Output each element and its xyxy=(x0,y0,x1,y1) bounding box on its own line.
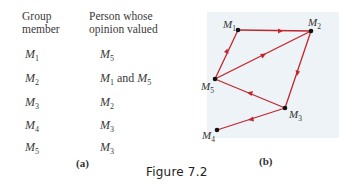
table-row-member: M5 xyxy=(25,140,39,156)
opinion-table: Group member Person whose opinion valued… xyxy=(0,0,190,160)
figure-caption: Figure 7.2 xyxy=(146,165,208,179)
table-row-valued: M2 xyxy=(100,95,114,111)
node-m3 xyxy=(283,106,288,111)
table-row-valued: M1 and M5 xyxy=(100,71,151,87)
table-row-member: M3 xyxy=(25,95,39,111)
node-m1 xyxy=(236,28,241,33)
caption-a: (a) xyxy=(76,157,89,169)
header-group-member: Group member xyxy=(22,10,60,36)
table-row-valued: M3 xyxy=(100,118,114,134)
node-m2 xyxy=(309,29,314,34)
node-m4 xyxy=(215,128,220,133)
table-row-member: M2 xyxy=(25,71,39,87)
table-row-member: M1 xyxy=(25,47,39,63)
table-row-valued: M5 xyxy=(100,47,114,63)
node-m5 xyxy=(213,77,218,82)
header-line: Group xyxy=(22,10,60,23)
header-person-valued: Person whose opinion valued xyxy=(89,10,158,36)
digraph-panel: M1 M2 M3 M4 M5 xyxy=(195,0,339,145)
header-line: opinion valued xyxy=(89,23,158,36)
digraph: M1 M2 M3 M4 M5 xyxy=(195,0,339,145)
header-line: Person whose xyxy=(89,10,158,23)
table-row-member: M4 xyxy=(25,118,39,134)
table-row-valued: M3 xyxy=(100,140,114,156)
caption-b: (b) xyxy=(259,155,272,167)
header-line: member xyxy=(22,23,60,36)
